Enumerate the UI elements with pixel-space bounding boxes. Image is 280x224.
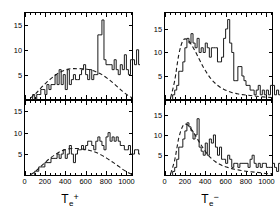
panel-top-left: 51015 xyxy=(14,13,140,100)
x-tick-label: 200 xyxy=(179,177,191,186)
y-tick-label: 5 xyxy=(158,151,162,160)
panel-bottom-left-xticks xyxy=(26,101,132,176)
panel-top-right-yticks xyxy=(165,30,273,77)
y-tick-label: 5 xyxy=(18,71,22,80)
y-tick-label: 10 xyxy=(14,46,22,55)
x-axis-title-electron: Te− xyxy=(140,192,280,208)
x-tick-label: 800 xyxy=(240,177,252,186)
y-tick-label: 15 xyxy=(14,107,22,116)
panel-bottom-right: 51015 02004006008001000 xyxy=(154,101,280,187)
x-axis-title-positron: Te+ xyxy=(0,192,140,208)
x-tick-label: 800 xyxy=(100,177,112,186)
electron-panels-svg: 51015 51015 02004006008001000 xyxy=(140,0,280,190)
panel-bottom-left-yticks xyxy=(25,112,133,155)
y-tick-label: 15 xyxy=(14,21,22,30)
x-tick-label: 400 xyxy=(199,177,211,186)
x-tick-label: 600 xyxy=(79,177,91,186)
panel-column-electron: 51015 51015 02004006008001000 Te− xyxy=(140,0,280,224)
x-tick-label: 1000 xyxy=(258,177,274,186)
x-axis-title-positron-symbol: T xyxy=(61,192,69,206)
panel-bottom-right-yticklabels: 51015 xyxy=(154,111,162,160)
y-tick-label: 10 xyxy=(154,48,162,57)
panel-bottom-right-yticks xyxy=(165,116,273,156)
x-tick-label: 400 xyxy=(59,177,71,186)
x-tick-label: 1000 xyxy=(118,177,134,186)
panel-bottom-right-xticklabels: 02004006008001000 xyxy=(162,177,274,186)
panel-top-right-yticklabels: 51015 xyxy=(154,25,162,81)
x-axis-title-positron-superscript: + xyxy=(73,192,78,202)
y-tick-label: 5 xyxy=(18,150,22,159)
x-tick-label: 600 xyxy=(219,177,231,186)
figure-root: 51015 51015 02004006008001000 Te+ xyxy=(0,0,280,224)
x-tick-label: 0 xyxy=(22,177,26,186)
x-tick-label: 0 xyxy=(162,177,166,186)
y-tick-label: 10 xyxy=(14,129,22,138)
panel-bottom-left-xticklabels: 02004006008001000 xyxy=(22,177,134,186)
panel-top-right-histogram xyxy=(171,20,280,100)
x-tick-label: 200 xyxy=(39,177,51,186)
y-tick-label: 15 xyxy=(154,25,162,34)
panel-top-left-yticklabels: 51015 xyxy=(14,21,22,80)
panel-bottom-left: 51015 02004006008001000 xyxy=(14,101,140,187)
panel-top-left-histogram xyxy=(31,20,140,100)
panel-top-right: 51015 xyxy=(154,13,280,100)
panel-bottom-left-histogram xyxy=(31,133,140,176)
x-axis-title-electron-superscript: − xyxy=(213,192,218,202)
panel-bottom-left-yticklabels: 51015 xyxy=(14,107,22,159)
panel-bottom-right-xticks xyxy=(166,101,272,176)
positron-panels-svg: 51015 51015 02004006008001000 xyxy=(0,0,140,190)
y-tick-label: 10 xyxy=(154,131,162,140)
x-axis-title-electron-symbol: T xyxy=(201,192,209,206)
panel-bottom-left-fit-curve xyxy=(31,148,133,174)
y-tick-label: 5 xyxy=(158,72,162,81)
panel-top-left-xticks xyxy=(26,13,132,100)
panel-column-positron: 51015 51015 02004006008001000 Te+ xyxy=(0,0,140,224)
y-tick-label: 15 xyxy=(154,111,162,120)
